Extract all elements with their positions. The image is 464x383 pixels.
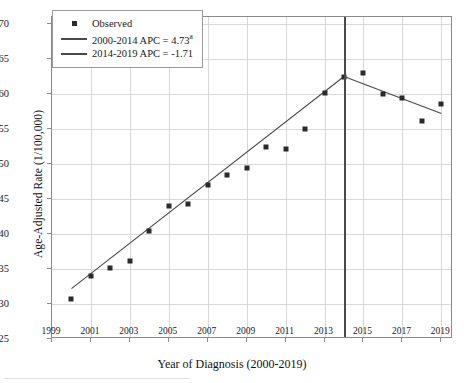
x-tick-mark — [129, 338, 130, 342]
legend-marker-square-icon — [72, 21, 77, 26]
x-tick-mark — [51, 338, 52, 342]
data-point — [225, 173, 230, 178]
y-tick-mark — [47, 58, 51, 59]
x-tick-label: 2019 — [410, 326, 464, 336]
y-tick-label: 65 — [0, 53, 9, 64]
data-point — [147, 228, 152, 233]
x-tick-mark — [401, 338, 402, 342]
legend-item-label: 2000-2014 APC = 4.73a — [88, 32, 193, 46]
gridline-horizontal — [52, 129, 451, 130]
x-tick-mark — [362, 338, 363, 342]
y-tick-label: 40 — [0, 228, 9, 239]
y-tick-label: 55 — [0, 123, 9, 134]
legend-key-line — [60, 53, 88, 55]
data-point — [244, 165, 249, 170]
y-tick-label: 45 — [0, 193, 9, 204]
gridline-horizontal — [52, 199, 451, 200]
x-tick-mark — [207, 338, 208, 342]
x-tick-mark — [168, 338, 169, 342]
y-axis-title: Age-Adjusted Rate (1/100,000) — [32, 64, 44, 304]
x-tick-mark — [324, 338, 325, 342]
legend-footnote-superscript: a — [190, 32, 193, 41]
gridline-vertical — [325, 17, 326, 337]
data-point — [69, 297, 74, 302]
y-tick-mark — [47, 23, 51, 24]
data-point — [127, 259, 132, 264]
x-axis-title: Year of Diagnosis (2000-2019) — [0, 357, 464, 372]
legend-item-label: 2014-2019 APC = -1.71 — [88, 48, 193, 59]
y-tick-mark — [47, 93, 51, 94]
y-tick-mark — [47, 303, 51, 304]
data-point — [322, 90, 327, 95]
gridline-vertical — [441, 17, 442, 337]
y-tick-label: 25 — [0, 333, 9, 344]
data-point — [186, 201, 191, 206]
data-point — [264, 144, 269, 149]
y-tick-mark — [47, 233, 51, 234]
data-point — [439, 101, 444, 106]
chart-figure: Age-Adjusted Rate (1/100,000) 2530354045… — [0, 0, 464, 383]
legend-item: Observed — [60, 16, 193, 31]
legend-line-icon — [61, 38, 87, 40]
y-tick-mark — [47, 268, 51, 269]
x-tick-mark — [440, 338, 441, 342]
data-point — [303, 127, 308, 132]
y-tick-label: 35 — [0, 263, 9, 274]
gridline-horizontal — [52, 94, 451, 95]
trend-segment — [344, 77, 441, 114]
data-point — [419, 118, 424, 123]
y-tick-label: 70 — [0, 18, 9, 29]
data-point — [380, 92, 385, 97]
chart-legend: Observed2000-2014 APC = 4.73a2014-2019 A… — [52, 10, 203, 68]
data-point — [283, 147, 288, 152]
legend-item: 2014-2019 APC = -1.71 — [60, 46, 193, 61]
legend-item-label: Observed — [88, 18, 132, 29]
y-tick-label: 50 — [0, 158, 9, 169]
x-tick-mark — [285, 338, 286, 342]
data-point — [108, 265, 113, 270]
legend-item: 2000-2014 APC = 4.73a — [60, 31, 193, 46]
gridline-vertical — [363, 17, 364, 337]
legend-key-marker — [60, 21, 88, 26]
gridline-vertical — [286, 17, 287, 337]
gridline-horizontal — [52, 164, 451, 165]
legend-line-icon — [61, 53, 87, 55]
joinpoint-marker-line — [344, 17, 346, 337]
data-point — [166, 204, 171, 209]
data-point — [400, 95, 405, 100]
y-tick-label: 30 — [0, 298, 9, 309]
x-tick-mark — [246, 338, 247, 342]
y-tick-label: 60 — [0, 88, 9, 99]
x-tick-mark — [90, 338, 91, 342]
gridline-vertical — [208, 17, 209, 337]
legend-key-line — [60, 38, 88, 40]
gridline-vertical — [247, 17, 248, 337]
y-tick-mark — [47, 163, 51, 164]
gridline-horizontal — [52, 234, 451, 235]
data-point — [361, 71, 366, 76]
data-point — [88, 274, 93, 279]
scan-artifact-line — [4, 378, 190, 379]
y-tick-mark — [47, 128, 51, 129]
y-tick-mark — [47, 198, 51, 199]
gridline-horizontal — [52, 304, 451, 305]
data-point — [205, 183, 210, 188]
gridline-vertical — [402, 17, 403, 337]
